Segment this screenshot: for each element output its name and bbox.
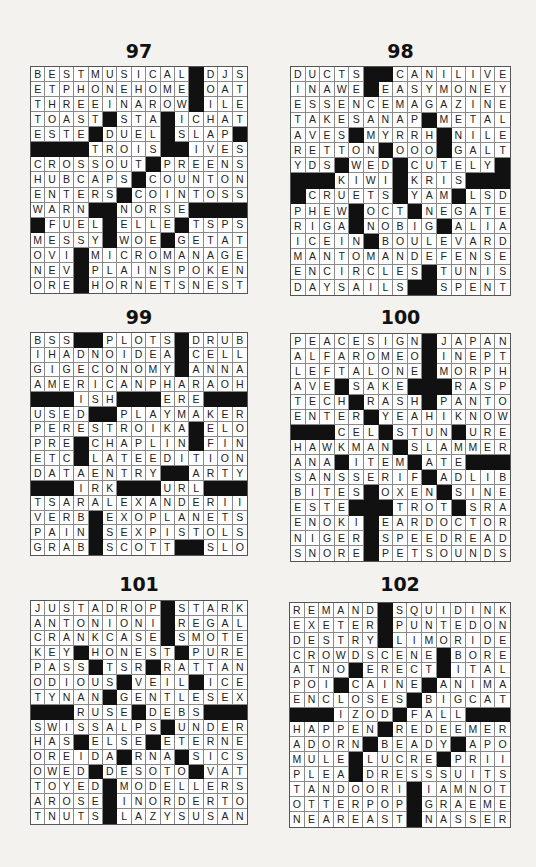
grid-cell: A — [74, 690, 88, 705]
crossword-grid: REMANDSQUIDINKEXETERPUNTEDONDESTRYLIMORI… — [289, 602, 511, 828]
grid-cell: T — [31, 809, 45, 824]
grid-cell: A — [146, 112, 160, 127]
grid-cell: O — [31, 278, 45, 293]
grid-cell: P — [437, 395, 452, 410]
grid-cell: P — [290, 767, 305, 782]
grid-cell: A — [452, 395, 467, 410]
grid-cell: M — [146, 363, 160, 378]
grid-cell: O — [132, 233, 146, 248]
grid-cell: R — [74, 705, 88, 720]
grid-cell: A — [218, 233, 232, 248]
black-square — [132, 705, 146, 720]
grid-cell: A — [320, 82, 335, 97]
grid-cell: R — [204, 333, 218, 348]
grid-cell: E — [31, 82, 45, 97]
black-square — [495, 173, 510, 188]
grid-cell: B — [233, 333, 247, 348]
black-square — [161, 233, 175, 248]
black-square — [437, 663, 452, 678]
grid-cell: H — [290, 722, 305, 737]
grid-cell: T — [218, 794, 232, 809]
grid-cell: L — [495, 663, 510, 678]
grid-cell: O — [364, 204, 379, 219]
grid-cell: A — [349, 280, 364, 295]
black-square — [393, 158, 408, 173]
grid-cell: E — [306, 143, 321, 158]
grid-cell: T — [291, 113, 306, 128]
black-square — [408, 280, 423, 295]
grid-cell: O — [132, 779, 146, 794]
grid-cell: E — [189, 233, 203, 248]
grid-cell: T — [31, 112, 45, 127]
grid-cell: M — [291, 249, 306, 264]
grid-cell: A — [437, 782, 452, 797]
grid-cell: A — [393, 516, 408, 531]
black-square — [103, 203, 117, 218]
grid-cell: V — [31, 511, 45, 526]
grid-cell: E — [291, 265, 306, 280]
grid-cell: C — [290, 648, 305, 663]
puzzle-number: 101 — [30, 573, 248, 595]
grid-cell: M — [437, 113, 452, 128]
grid-cell: H — [422, 410, 437, 425]
grid-cell: U — [31, 407, 45, 422]
grid-cell: S — [422, 546, 437, 561]
grid-cell: M — [290, 752, 305, 767]
grid-cell: A — [218, 112, 232, 127]
grid-cell: A — [45, 466, 59, 481]
black-square — [89, 660, 103, 675]
grid-cell: M — [481, 678, 496, 693]
grid-cell: Y — [320, 280, 335, 295]
grid-cell: I — [103, 97, 117, 112]
grid-cell: G — [117, 690, 131, 705]
black-square — [204, 392, 218, 407]
grid-cell: U — [60, 809, 74, 824]
grid-cell: G — [31, 540, 45, 555]
grid-cell: I — [466, 603, 481, 618]
black-square — [320, 425, 335, 440]
grid-cell: E — [117, 705, 131, 720]
grid-cell: A — [306, 440, 321, 455]
grid-cell: N — [422, 618, 437, 633]
black-square — [291, 189, 306, 204]
grid-cell: P — [481, 737, 496, 752]
grid-cell: S — [218, 188, 232, 203]
grid-cell: E — [320, 234, 335, 249]
grid-cell: R — [481, 425, 496, 440]
grid-cell: I — [466, 633, 481, 648]
grid-cell: A — [495, 500, 510, 515]
grid-cell: K — [495, 603, 510, 618]
grid-cell: R — [349, 797, 364, 812]
grid-cell: A — [422, 189, 437, 204]
grid-cell: O — [349, 143, 364, 158]
grid-cell: E — [233, 97, 247, 112]
grid-cell: E — [481, 812, 496, 827]
black-square — [349, 500, 364, 515]
grid-cell: D — [103, 127, 117, 142]
grid-cell: A — [204, 601, 218, 616]
grid-cell: E — [319, 618, 334, 633]
grid-cell: N — [349, 603, 364, 618]
grid-cell: I — [437, 67, 452, 82]
grid-cell: O — [481, 410, 496, 425]
black-square — [204, 481, 218, 496]
grid-cell: E — [408, 531, 423, 546]
grid-cell: R — [60, 511, 74, 526]
grid-cell: D — [290, 633, 305, 648]
grid-cell: D — [74, 765, 88, 780]
grid-cell: S — [233, 157, 247, 172]
black-square — [146, 481, 160, 496]
grid-cell: I — [466, 767, 481, 782]
grid-cell: T — [481, 395, 496, 410]
grid-cell: E — [132, 735, 146, 750]
grid-cell: M — [466, 440, 481, 455]
grid-cell: R — [495, 516, 510, 531]
grid-cell: U — [466, 425, 481, 440]
grid-cell: O — [45, 112, 59, 127]
grid-cell: S — [204, 540, 218, 555]
grid-cell: D — [89, 779, 103, 794]
grid-cell: E — [175, 203, 189, 218]
grid-cell: E — [408, 364, 423, 379]
grid-cell: I — [74, 392, 88, 407]
grid-cell: O — [481, 516, 496, 531]
